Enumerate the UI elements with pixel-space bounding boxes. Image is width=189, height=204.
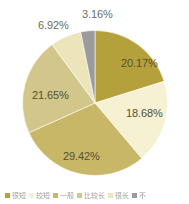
legend-item-label: 比较长 <box>84 191 105 200</box>
legend-swatch-icon <box>5 193 10 198</box>
pie-label-slice-5: 3.16% <box>82 8 113 20</box>
pie-label-slice-2: 29.42% <box>63 150 100 162</box>
legend-swatch-icon <box>29 193 34 198</box>
legend-swatch-icon <box>53 193 58 198</box>
pie-label-slice-4: 6.92% <box>38 19 69 31</box>
pie-chart-figure: 20.17% 18.68% 29.42% 21.65% 6.92% 3.16% … <box>0 0 189 204</box>
legend-swatch-icon <box>132 193 137 198</box>
pie-label-slice-3: 21.65% <box>32 89 69 101</box>
legend-item[interactable]: 不 <box>132 191 146 200</box>
pie-label-slice-0: 20.17% <box>121 57 158 69</box>
legend-item[interactable]: 一般 <box>53 191 74 200</box>
chart-legend: 很短较短一般比较长很长不 <box>0 191 189 204</box>
legend-item-label: 很短 <box>12 191 26 200</box>
legend-item[interactable]: 很短 <box>5 191 26 200</box>
legend-item-label: 较短 <box>36 191 50 200</box>
legend-item-label: 一般 <box>60 191 74 200</box>
legend-item[interactable]: 很长 <box>108 191 129 200</box>
legend-item-label: 很长 <box>115 191 129 200</box>
legend-swatch-icon <box>108 193 113 198</box>
legend-item[interactable]: 较短 <box>29 191 50 200</box>
pie-label-slice-1: 18.68% <box>126 107 163 119</box>
legend-item-label: 不 <box>139 191 146 200</box>
legend-item[interactable]: 比较长 <box>77 191 105 200</box>
legend-swatch-icon <box>77 193 82 198</box>
